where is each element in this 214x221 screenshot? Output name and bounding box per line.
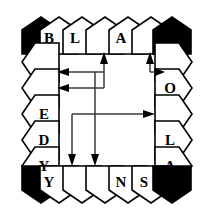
pentagon-ring: [22, 17, 192, 203]
arrow-down-right-head: [91, 154, 99, 166]
arrow-network: [62, 57, 160, 161]
arrow-right-mid-head: [143, 110, 155, 118]
figure-canvas: [0, 0, 214, 221]
arrow-down-left-head: [68, 154, 76, 166]
pentagon-ring-figure: B L A O L A E D Y Y N S: [0, 0, 214, 221]
arrow-heads: [57, 52, 165, 166]
